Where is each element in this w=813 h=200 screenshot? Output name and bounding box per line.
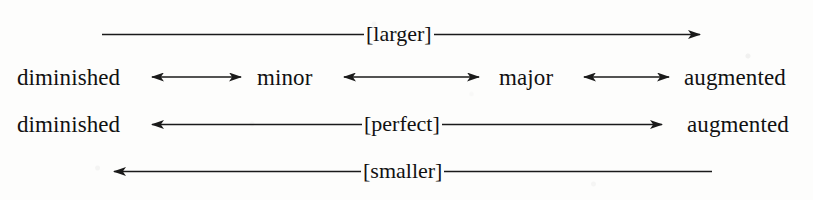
term-major: major [499,66,553,89]
term-diminished-row2: diminished [17,66,120,89]
term-augmented-row3: augmented [687,113,789,136]
label-perfect: [perfect] [362,113,442,135]
label-larger: [larger] [364,23,434,45]
term-augmented-row2: augmented [684,66,786,89]
label-smaller: [smaller] [361,160,444,182]
term-diminished-row3: diminished [17,113,120,136]
interval-quality-diagram: [larger] diminished minor major augmente… [0,0,813,200]
term-minor: minor [257,66,312,89]
